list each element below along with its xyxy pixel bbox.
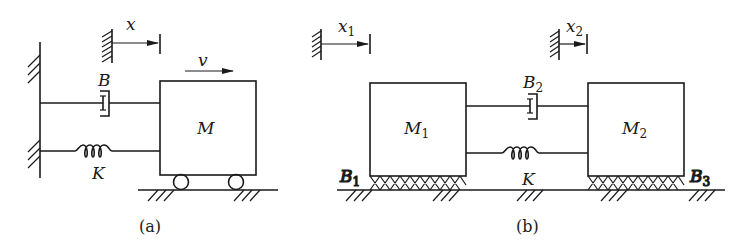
label-m2: M2 [621, 118, 647, 141]
mass-m2: M2 [588, 83, 684, 176]
wheel-left [174, 175, 189, 190]
figure-a: x v B K M [28, 14, 278, 236]
displacement-reference-x1: x1 [312, 16, 370, 60]
velocity-arrow-v: v [185, 50, 233, 71]
damper-b: B [40, 70, 160, 116]
label-x1: x1 [338, 16, 355, 39]
label-k-b: K [521, 169, 536, 189]
label-x2: x2 [566, 16, 583, 39]
friction-b3: B3 [588, 166, 710, 190]
mass-m1: M1 [370, 83, 466, 176]
caption-a: (a) [139, 217, 161, 236]
displacement-reference-x2: x2 [550, 16, 587, 60]
label-b3: B3 [689, 166, 710, 189]
mechanical-systems-diagram: x v B K M [0, 0, 740, 247]
label-x: x [126, 14, 136, 34]
label-b2: B2 [522, 72, 543, 95]
label-b1: B1 [339, 166, 360, 189]
ground-a [138, 190, 278, 201]
ground-b [337, 190, 725, 201]
damper-b2: B2 [466, 72, 588, 119]
friction-b1: B1 [339, 166, 466, 190]
fixed-wall-left [28, 42, 40, 178]
label-k: K [91, 163, 106, 183]
figure-b: x1 x2 M1 M2 [312, 16, 725, 236]
label-b: B [97, 70, 111, 90]
wheel-right [229, 175, 244, 190]
label-v: v [198, 50, 208, 70]
label-m1: M1 [403, 118, 429, 141]
mass-m: M [160, 81, 256, 175]
caption-b: (b) [516, 217, 539, 236]
displacement-reference-x: x [102, 14, 160, 63]
spring-k: K [40, 145, 160, 183]
spring-k-b: K [466, 147, 588, 189]
label-m: M [196, 118, 215, 138]
